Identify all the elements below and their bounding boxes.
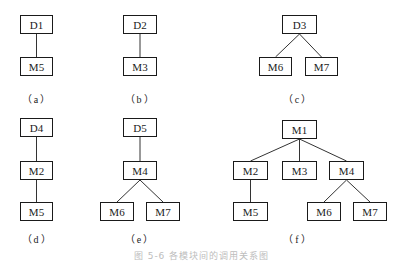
- module-box-m4: M4: [329, 161, 364, 180]
- panel-label: （c）: [283, 91, 313, 106]
- module-box-m1: M1: [282, 120, 317, 139]
- panel-label: （e）: [125, 231, 155, 246]
- module-box-d4: D4: [20, 118, 53, 137]
- figure-caption: 图 5-6 各模块间的调用关系图: [134, 249, 269, 262]
- panel-label: （a）: [22, 91, 52, 106]
- panel-label: （b）: [125, 91, 156, 106]
- call-edge: [300, 34, 322, 57]
- call-edge: [117, 180, 140, 202]
- panel-label: （f）: [283, 231, 312, 246]
- call-edge: [140, 180, 163, 202]
- call-edge: [276, 34, 300, 57]
- module-box-m5: M5: [20, 202, 53, 221]
- module-box-m3: M3: [282, 161, 317, 180]
- panel-label: （d）: [22, 231, 53, 246]
- call-edge: [251, 139, 300, 161]
- module-box-m2: M2: [20, 161, 53, 180]
- module-box-m2: M2: [233, 161, 268, 180]
- call-edge: [300, 139, 347, 161]
- module-box-m6: M6: [259, 57, 292, 76]
- module-box-m4: M4: [123, 161, 157, 180]
- module-box-m7: M7: [305, 57, 338, 76]
- call-edge: [347, 180, 371, 202]
- module-box-m3: M3: [123, 57, 157, 76]
- module-box-d1: D1: [20, 15, 53, 34]
- module-box-m6: M6: [307, 202, 341, 221]
- call-edge: [324, 180, 347, 202]
- module-box-m6: M6: [100, 202, 134, 221]
- module-box-m7: M7: [146, 202, 180, 221]
- module-box-m5: M5: [233, 202, 268, 221]
- module-box-d2: D2: [123, 15, 157, 34]
- module-box-m7: M7: [353, 202, 387, 221]
- module-box-m5: M5: [20, 57, 53, 76]
- module-box-d5: D5: [123, 118, 157, 137]
- module-box-d3: D3: [282, 15, 317, 34]
